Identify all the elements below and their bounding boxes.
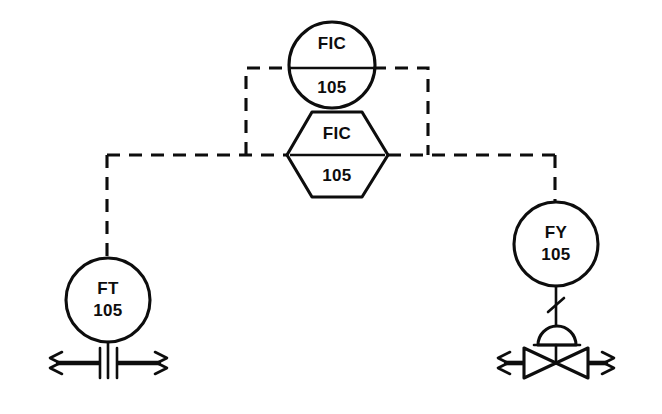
ft-circle-outline	[66, 258, 150, 342]
instrument-bubble-fy[interactable]: FY 105	[514, 202, 598, 286]
fy-function-label: FY	[545, 223, 568, 242]
instrument-bubble-fic-circle[interactable]: FIC 105	[289, 22, 375, 108]
instrument-bubble-fic-hexagon[interactable]: FIC 105	[287, 112, 388, 197]
pid-diagram-canvas: FIC 105 FIC 105 FT 105 FY 105	[0, 0, 662, 414]
signal-line-fic-left-loop	[246, 68, 292, 155]
valve-body-right-triangle	[556, 348, 588, 378]
instrument-bubble-ft[interactable]: FT 105	[66, 258, 150, 342]
fic-hexagon-number-label: 105	[322, 166, 351, 185]
valve-body-left-triangle	[524, 348, 556, 378]
pid-drawing: FIC 105 FIC 105 FT 105 FY 105	[0, 0, 662, 414]
control-valve-assembly	[498, 286, 614, 378]
fy-number-label: 105	[541, 245, 570, 264]
fic-circle-function-label: FIC	[318, 34, 346, 53]
ft-function-label: FT	[97, 279, 119, 298]
fic-hexagon-function-label: FIC	[323, 124, 351, 143]
diaphragm-actuator-icon	[538, 326, 576, 345]
ft-number-label: 105	[93, 301, 122, 320]
fic-circle-number-label: 105	[317, 78, 346, 97]
fy-circle-outline	[514, 202, 598, 286]
orifice-plate-assembly	[50, 342, 167, 378]
